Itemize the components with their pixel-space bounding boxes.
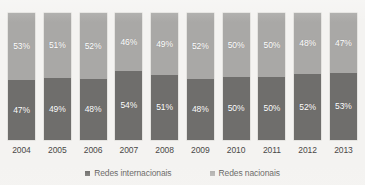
bar-2011[interactable]: 50%50% bbox=[258, 13, 285, 140]
bar-2012[interactable]: 48%52% bbox=[294, 13, 321, 140]
bar-2007[interactable]: 46%54% bbox=[115, 13, 142, 140]
bar-value-label: 51% bbox=[156, 103, 173, 112]
bar-value-label: 53% bbox=[13, 42, 30, 51]
bar-segment-internacionais[interactable]: 49% bbox=[44, 78, 71, 140]
bar-2010[interactable]: 50%50% bbox=[223, 13, 250, 140]
bar-segment-internacionais[interactable]: 50% bbox=[223, 77, 250, 141]
plot-area: 53%47%51%49%52%48%46%54%49%51%52%48%50%5… bbox=[8, 13, 357, 140]
bar-segment-nacionais[interactable]: 49% bbox=[151, 13, 178, 75]
stacked-bar-chart: Em número de conexões 53%47%51%49%52%48%… bbox=[0, 0, 365, 185]
bar-value-label: 53% bbox=[335, 102, 352, 111]
x-axis-labels: 2004200520062007200820092010201120122013 bbox=[8, 144, 357, 156]
bar-segment-internacionais[interactable]: 51% bbox=[151, 75, 178, 140]
bar-2004[interactable]: 53%47% bbox=[8, 13, 35, 140]
legend-item-internacionais[interactable]: Redes internacionais bbox=[85, 169, 171, 178]
bar-segment-internacionais[interactable]: 48% bbox=[187, 79, 214, 140]
bar-value-label: 46% bbox=[120, 38, 137, 47]
bars-container: 53%47%51%49%52%48%46%54%49%51%52%48%50%5… bbox=[8, 13, 357, 140]
bar-value-label: 52% bbox=[299, 103, 316, 112]
bar-value-label: 54% bbox=[120, 101, 137, 110]
bar-value-label: 48% bbox=[192, 105, 209, 114]
bar-value-label: 50% bbox=[228, 41, 245, 50]
bar-segment-nacionais[interactable]: 50% bbox=[258, 13, 285, 77]
bar-value-label: 52% bbox=[85, 42, 102, 51]
legend-swatch-icon bbox=[85, 171, 90, 176]
bar-value-label: 51% bbox=[49, 41, 66, 50]
x-tick-2009: 2009 bbox=[187, 144, 214, 156]
bar-value-label: 50% bbox=[264, 41, 281, 50]
bar-value-label: 49% bbox=[49, 105, 66, 114]
x-tick-2008: 2008 bbox=[151, 144, 178, 156]
x-tick-2012: 2012 bbox=[294, 144, 321, 156]
x-tick-2005: 2005 bbox=[44, 144, 71, 156]
bar-segment-nacionais[interactable]: 46% bbox=[115, 13, 142, 71]
bar-segment-nacionais[interactable]: 52% bbox=[187, 13, 214, 79]
bar-value-label: 47% bbox=[13, 106, 30, 115]
legend-swatch-icon bbox=[210, 171, 215, 176]
bar-segment-nacionais[interactable]: 47% bbox=[330, 13, 357, 73]
bar-value-label: 47% bbox=[335, 39, 352, 48]
bar-value-label: 50% bbox=[264, 104, 281, 113]
bar-2008[interactable]: 49%51% bbox=[151, 13, 178, 140]
x-tick-2006: 2006 bbox=[80, 144, 107, 156]
legend-label: Redes nacionais bbox=[219, 169, 280, 178]
bar-2006[interactable]: 52%48% bbox=[80, 13, 107, 140]
bar-segment-internacionais[interactable]: 52% bbox=[294, 74, 321, 140]
x-tick-2013: 2013 bbox=[330, 144, 357, 156]
chart-legend: Redes internacionaisRedes nacionais bbox=[0, 166, 365, 180]
bar-value-label: 52% bbox=[192, 42, 209, 51]
chart-title-strip: Em número de conexões bbox=[0, 0, 365, 7]
legend-item-nacionais[interactable]: Redes nacionais bbox=[210, 169, 280, 178]
bar-segment-nacionais[interactable]: 48% bbox=[294, 13, 321, 74]
legend-label: Redes internacionais bbox=[94, 169, 171, 178]
bar-segment-nacionais[interactable]: 51% bbox=[44, 13, 71, 78]
chart-title: Em número de conexões bbox=[0, 0, 365, 1]
bar-value-label: 50% bbox=[228, 104, 245, 113]
x-tick-2010: 2010 bbox=[223, 144, 250, 156]
bar-2005[interactable]: 51%49% bbox=[44, 13, 71, 140]
bar-segment-nacionais[interactable]: 53% bbox=[8, 13, 35, 80]
bar-segment-internacionais[interactable]: 53% bbox=[330, 73, 357, 140]
bar-segment-nacionais[interactable]: 52% bbox=[80, 13, 107, 79]
bar-value-label: 49% bbox=[156, 40, 173, 49]
x-tick-2004: 2004 bbox=[8, 144, 35, 156]
bar-segment-internacionais[interactable]: 50% bbox=[258, 77, 285, 141]
bar-2013[interactable]: 47%53% bbox=[330, 13, 357, 140]
x-tick-2007: 2007 bbox=[115, 144, 142, 156]
bar-segment-internacionais[interactable]: 54% bbox=[115, 71, 142, 140]
bar-segment-internacionais[interactable]: 47% bbox=[8, 80, 35, 140]
bar-2009[interactable]: 52%48% bbox=[187, 13, 214, 140]
bar-segment-nacionais[interactable]: 50% bbox=[223, 13, 250, 77]
bar-value-label: 48% bbox=[85, 105, 102, 114]
bar-value-label: 48% bbox=[299, 39, 316, 48]
bar-segment-internacionais[interactable]: 48% bbox=[80, 79, 107, 140]
x-tick-2011: 2011 bbox=[258, 144, 285, 156]
